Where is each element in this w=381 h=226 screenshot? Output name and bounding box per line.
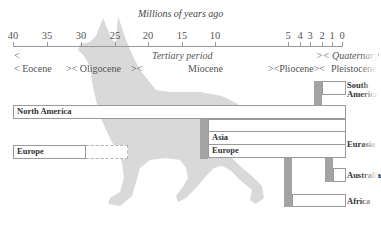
tick-label: 30: [76, 30, 87, 41]
australia-connector: [325, 158, 333, 182]
epoch-oligocene: >< Oligocene: [66, 63, 121, 74]
tick-label: 4: [297, 30, 302, 41]
south-america-connector: [314, 81, 322, 105]
epoch-miocene-marker: ><: [131, 63, 142, 74]
time-axis-line: [13, 46, 343, 47]
tick-mark: [47, 42, 48, 46]
tick-mark: [13, 42, 14, 46]
tick-mark: [115, 42, 116, 46]
north-america-bar: North America: [13, 105, 346, 119]
tick-mark: [182, 42, 183, 46]
north-america-label: North America: [14, 106, 345, 117]
tick-label: 20: [143, 30, 154, 41]
south-america-bar: [322, 81, 346, 95]
africa-connector: [284, 158, 292, 207]
asia-europe-connector: [200, 119, 208, 159]
asia-bar: Asia: [208, 131, 346, 145]
tick-label: 10: [210, 30, 221, 41]
tick-label: 1: [329, 30, 334, 41]
europe-bar: Europe: [208, 144, 346, 158]
tick-label: 0: [339, 30, 344, 41]
tick-mark: [215, 42, 216, 46]
tick-label: 15: [177, 30, 188, 41]
tick-label: 40: [8, 30, 19, 41]
tick-mark: [310, 42, 311, 46]
axis-title: Millions of years ago: [138, 8, 223, 19]
tick-mark: [81, 42, 82, 46]
europe-early-uncertain-bar: [86, 145, 128, 159]
europe-early-bar: Europe: [13, 145, 86, 159]
tick-mark: [322, 42, 323, 46]
epoch-eocene: < Eocene: [14, 63, 52, 74]
right-edge-fade: [360, 0, 378, 226]
europe-early-label: Europe: [14, 146, 85, 157]
tick-label: 25: [110, 30, 121, 41]
africa-bar: [292, 194, 346, 207]
tick-mark: [148, 42, 149, 46]
period-tertiary: Tertiary period: [152, 50, 212, 61]
tick-mark: [332, 42, 333, 46]
tertiary-start-marker: <: [14, 50, 20, 61]
tick-label: 5: [285, 30, 290, 41]
australia-bar: [333, 168, 346, 182]
tick-mark: [300, 42, 301, 46]
europe-label: Europe: [209, 145, 345, 156]
tick-mark: [288, 42, 289, 46]
asia-label: Asia: [209, 132, 345, 143]
epoch-miocene: Miocene: [188, 63, 223, 74]
tick-label: 35: [42, 30, 53, 41]
tick-mark: [342, 42, 343, 46]
epoch-pliocene: ><Pliocene><: [268, 63, 325, 74]
tick-label: 2: [319, 30, 324, 41]
tick-label: 3: [307, 30, 312, 41]
